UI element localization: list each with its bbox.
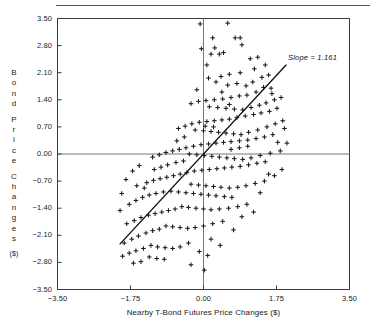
y-axis-title-letter: h [6, 182, 22, 192]
data-point [124, 221, 129, 226]
data-point [124, 177, 129, 182]
data-point [211, 125, 216, 130]
data-point [235, 81, 240, 86]
data-point [240, 214, 245, 219]
y-axis-title-letter: s [6, 234, 22, 244]
data-point [212, 118, 217, 123]
data-point [231, 228, 236, 233]
y-axis-tick-label: 2.10 [22, 68, 52, 77]
data-point [206, 76, 211, 81]
data-point [150, 155, 155, 160]
data-point [161, 190, 166, 195]
y-axis-tick-label: 0.70 [22, 122, 52, 131]
data-point [275, 140, 280, 145]
x-axis-tick-label: 3.50 [330, 294, 370, 303]
data-point [238, 70, 243, 75]
data-point [217, 207, 222, 212]
data-point [219, 74, 224, 79]
data-point [166, 208, 171, 213]
data-point [237, 146, 242, 151]
y-axis-title: BondPriceChanges($) [6, 68, 22, 259]
data-point [190, 122, 195, 127]
data-point [154, 191, 159, 196]
data-point [217, 52, 222, 57]
x-axis-title: Nearby T-Bond Futures Price Changes ($) [57, 308, 350, 317]
y-axis-title-letter: d [6, 99, 22, 109]
data-point [193, 225, 198, 230]
data-point [220, 97, 225, 102]
data-point [215, 166, 220, 171]
data-point [207, 167, 212, 172]
data-point [189, 101, 194, 106]
data-point [157, 227, 162, 232]
data-point [221, 140, 226, 145]
data-point [216, 130, 221, 135]
data-point [140, 195, 145, 200]
data-point [265, 125, 270, 130]
data-point [255, 128, 260, 133]
data-point [178, 245, 183, 250]
data-point [210, 221, 215, 226]
plot-canvas [0, 0, 370, 330]
data-point [229, 139, 234, 144]
data-point [186, 205, 191, 210]
data-point [144, 231, 149, 236]
data-point [266, 172, 271, 177]
data-point [263, 159, 268, 164]
data-point [154, 256, 159, 261]
y-axis-title-letter: P [6, 115, 22, 125]
data-point [181, 159, 186, 164]
data-point [207, 104, 212, 109]
data-point [201, 207, 206, 212]
data-point [170, 224, 175, 229]
data-point [178, 225, 183, 230]
data-point [243, 114, 248, 119]
data-point [254, 136, 259, 141]
data-point [246, 163, 251, 168]
y-axis-title-letter: g [6, 213, 22, 223]
y-axis-tick-label: 2.80 [22, 41, 52, 50]
data-point [170, 246, 175, 251]
data-point [272, 98, 277, 103]
data-point [137, 163, 142, 168]
y-axis-title-letter: c [6, 146, 22, 156]
data-point [233, 36, 238, 41]
data-point [220, 90, 225, 95]
data-point [132, 218, 137, 223]
data-point [151, 178, 156, 183]
data-point [212, 46, 217, 51]
data-point [245, 202, 250, 207]
data-point [197, 120, 202, 125]
data-point [196, 99, 201, 104]
data-point [184, 190, 189, 195]
data-point [217, 155, 222, 160]
y-axis-title-letter: r [6, 125, 22, 135]
data-point [249, 105, 254, 110]
data-point [206, 193, 211, 198]
y-axis-title-letter: n [6, 89, 22, 99]
data-point [191, 191, 196, 196]
data-point [174, 160, 179, 165]
data-point [215, 105, 220, 110]
data-point [237, 94, 242, 99]
data-point [205, 63, 210, 68]
data-point [221, 50, 226, 55]
data-point [195, 152, 200, 157]
data-point [254, 90, 259, 95]
data-point [231, 132, 236, 137]
data-point [159, 165, 164, 170]
data-point [209, 52, 214, 57]
data-point [206, 142, 211, 147]
y-axis-tick-label: −1.40 [22, 203, 52, 212]
x-axis-tick-label: 1.75 [257, 294, 297, 303]
data-point [280, 167, 285, 172]
data-point [202, 268, 207, 273]
data-point [227, 186, 232, 191]
data-point [189, 262, 194, 267]
y-axis-title-letter: C [6, 172, 22, 182]
data-point [205, 253, 210, 258]
data-point [144, 180, 149, 185]
data-point [158, 176, 163, 181]
data-point [152, 167, 157, 172]
data-point [211, 184, 216, 189]
